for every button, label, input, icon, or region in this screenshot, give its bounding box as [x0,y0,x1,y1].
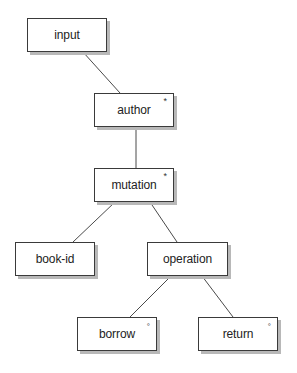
choice-marker-icon: ° [147,322,150,331]
edge-mutation-operation [150,202,177,242]
node-book-id: book-id [15,242,95,276]
node-label: mutation [111,178,156,192]
node-return: return ° [198,317,278,351]
node-label: author [117,103,150,117]
node-label: book-id [36,252,75,266]
node-label: return [223,327,254,341]
repeat-marker-icon: * [163,172,167,181]
edge-mutation-book-id [73,202,115,242]
node-borrow: borrow ° [77,317,157,351]
repeat-marker-icon: * [163,97,167,106]
node-input: input [27,18,107,52]
node-label: operation [163,252,212,266]
node-author: author * [94,93,174,127]
edge-input-author [83,52,120,93]
node-label: borrow [99,327,135,341]
node-mutation: mutation * [94,168,174,202]
node-label: input [54,28,80,42]
edge-operation-borrow [130,276,171,317]
choice-marker-icon: ° [268,322,271,331]
node-operation: operation [147,242,228,276]
edge-operation-return [202,276,233,317]
